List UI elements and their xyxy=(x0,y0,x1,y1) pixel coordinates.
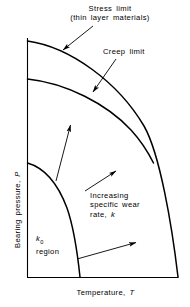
y-axis-label: Bearing pressure, P xyxy=(13,171,22,248)
wear-rate-line-1: Increasing xyxy=(90,191,140,200)
bearing-pressure-temperature-diagram: Stress limit (thin layer materials) Cree… xyxy=(0,0,190,307)
wear-rate-line-3-prefix: rate, xyxy=(90,210,111,219)
wear-rate-arrow-lower xyxy=(77,243,136,260)
wear-rate-line-2: specific wear xyxy=(90,200,140,209)
stress-limit-leader-arrow xyxy=(63,26,93,50)
y-axis-label-symbol: P xyxy=(13,171,22,176)
stress-limit-annotation: Stress limit (thin layer materials) xyxy=(34,4,186,23)
x-axis-label: Temperature, T xyxy=(28,288,183,297)
creep-limit-curve xyxy=(28,79,154,163)
wear-rate-symbol: k xyxy=(111,210,115,219)
k0-region-line-1: k0 xyxy=(36,234,59,247)
stress-limit-line-1: Stress limit xyxy=(34,4,186,13)
k0-region-line-2: region xyxy=(36,247,59,256)
creep-limit-annotation: Creep limit xyxy=(103,47,145,56)
wear-rate-line-3: rate, k xyxy=(90,210,140,219)
k0-subscript: 0 xyxy=(40,239,43,245)
y-axis-label-prefix: Bearing pressure, xyxy=(13,177,22,248)
x-axis-label-symbol: T xyxy=(129,288,134,297)
wear-rate-arrow-middle xyxy=(85,171,116,191)
diagram-canvas xyxy=(0,0,190,307)
stress-limit-line-2: (thin layer materials) xyxy=(34,13,186,22)
wear-rate-annotation: Increasing specific wear rate, k xyxy=(90,191,140,219)
creep-limit-text: Creep limit xyxy=(103,47,145,56)
x-axis-label-prefix: Temperature, xyxy=(77,288,130,297)
wear-rate-arrow-upper xyxy=(56,125,71,181)
k0-region-annotation: k0 region xyxy=(36,234,59,256)
k0-boundary-curve xyxy=(28,163,81,277)
